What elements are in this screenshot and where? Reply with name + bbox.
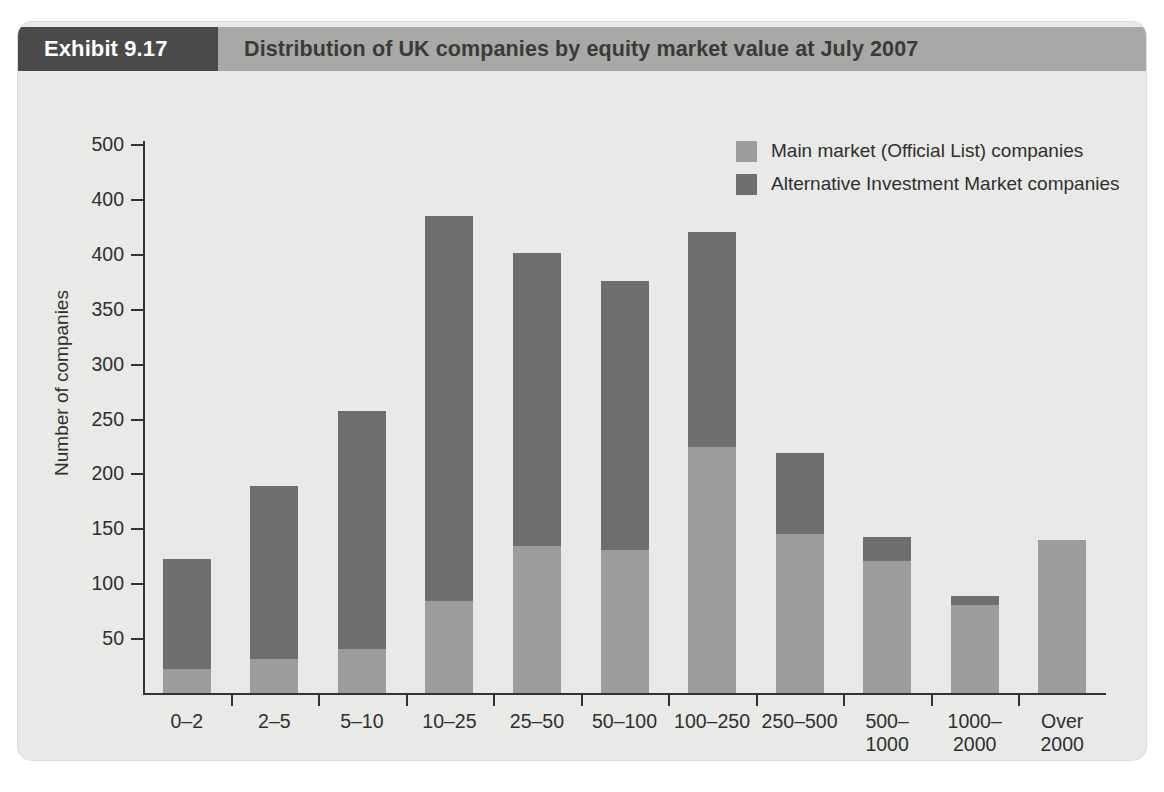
y-axis-tick-label: 350 (72, 297, 124, 320)
bar-group[interactable] (163, 559, 211, 693)
bar-segment-aim[interactable] (601, 281, 649, 550)
y-axis-tick-mark (131, 638, 144, 640)
y-axis-tick-mark (131, 473, 144, 475)
bar-segment-main-market[interactable] (688, 447, 736, 693)
y-axis-tick-labels: 50100150200250300350400400500 (66, 82, 124, 754)
y-axis-tick-label: 150 (72, 517, 124, 540)
bar-group[interactable] (338, 411, 386, 693)
bar-group[interactable] (688, 232, 736, 693)
y-axis-tick-mark (131, 144, 144, 146)
exhibit-card: Exhibit 9.17 Distribution of UK companie… (18, 22, 1146, 760)
bar-segment-aim[interactable] (338, 411, 386, 649)
x-axis-tick-mark (318, 695, 320, 706)
legend-swatch-icon (736, 141, 757, 162)
bar-segment-main-market[interactable] (776, 534, 824, 693)
x-axis-tick-mark (581, 695, 583, 706)
bar-group[interactable] (601, 281, 649, 693)
x-axis-tick-mark (668, 695, 670, 706)
x-axis-tick-mark (406, 695, 408, 706)
chart-plot-area: Number of companies 50100150200250300350… (18, 82, 1146, 754)
y-axis-tick-label: 250 (72, 407, 124, 430)
x-axis-tick-mark (756, 695, 758, 706)
bar-segment-main-market[interactable] (1038, 540, 1086, 693)
legend-label: Main market (Official List) companies (771, 140, 1083, 162)
x-axis-tick-mark (931, 695, 933, 706)
bar-segment-main-market[interactable] (425, 601, 473, 693)
exhibit-number-badge: Exhibit 9.17 (18, 27, 218, 71)
y-axis-tick-label: 500 (72, 133, 124, 156)
x-axis-category-label: Over2000 (1000, 710, 1124, 756)
bar-segment-main-market[interactable] (601, 550, 649, 693)
y-axis-tick-mark (131, 309, 144, 311)
bar-group[interactable] (1038, 540, 1086, 693)
bar-group[interactable] (513, 253, 561, 693)
x-axis-tick-mark (493, 695, 495, 706)
y-axis-tick-label: 50 (72, 627, 124, 650)
bar-segment-main-market[interactable] (863, 561, 911, 693)
bar-segment-aim[interactable] (513, 253, 561, 546)
bar-group[interactable] (951, 596, 999, 693)
bar-group[interactable] (776, 453, 824, 693)
exhibit-title: Distribution of UK companies by equity m… (218, 27, 1146, 71)
y-axis-tick-mark (131, 199, 144, 201)
bar-segment-aim[interactable] (951, 596, 999, 605)
y-axis-tick-label: 400 (72, 242, 124, 265)
bar-segment-main-market[interactable] (163, 669, 211, 693)
y-axis-tick-label: 300 (72, 352, 124, 375)
legend-label: Alternative Investment Market companies (771, 173, 1120, 195)
x-axis-tick-mark (231, 695, 233, 706)
bar-segment-aim[interactable] (688, 232, 736, 447)
y-axis-tick-mark (131, 583, 144, 585)
y-axis-tick-mark (131, 254, 144, 256)
legend-swatch-icon (736, 174, 757, 195)
x-axis-tick-mark (1018, 695, 1020, 706)
bar-group[interactable] (250, 486, 298, 694)
x-axis-tick-mark (843, 695, 845, 706)
bar-segment-aim[interactable] (425, 216, 473, 600)
legend-item[interactable]: Alternative Investment Market companies (736, 173, 1120, 195)
bar-segment-main-market[interactable] (250, 659, 298, 693)
y-axis-tick-mark (131, 419, 144, 421)
bar-segment-aim[interactable] (163, 559, 211, 669)
bar-segment-main-market[interactable] (951, 605, 999, 693)
exhibit-header: Exhibit 9.17 Distribution of UK companie… (18, 27, 1146, 71)
bar-group[interactable] (425, 216, 473, 693)
y-axis-tick-label: 400 (72, 187, 124, 210)
bar-segment-main-market[interactable] (513, 546, 561, 693)
y-axis-tick-mark (131, 364, 144, 366)
chart-legend: Main market (Official List) companiesAlt… (736, 140, 1120, 195)
legend-item[interactable]: Main market (Official List) companies (736, 140, 1120, 162)
bar-segment-aim[interactable] (863, 537, 911, 561)
y-axis-tick-label: 100 (72, 572, 124, 595)
bar-group[interactable] (863, 537, 911, 693)
bar-segment-aim[interactable] (250, 486, 298, 659)
bar-segment-aim[interactable] (776, 453, 824, 534)
bar-segment-main-market[interactable] (338, 649, 386, 693)
y-axis-tick-label: 200 (72, 462, 124, 485)
y-axis-tick-mark (131, 528, 144, 530)
